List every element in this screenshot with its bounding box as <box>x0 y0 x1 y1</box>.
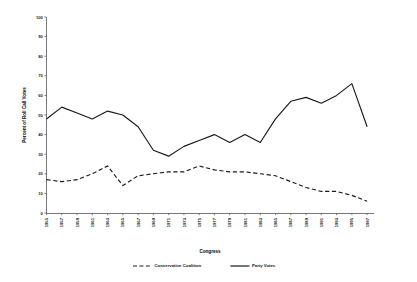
y-tick-label: 80 <box>38 54 43 59</box>
x-axis-title: Congress <box>199 249 221 254</box>
x-tick-label: 1989 <box>304 217 309 227</box>
x-tick-label: 1993 <box>334 217 339 227</box>
y-tick-label: 20 <box>38 171 43 176</box>
y-tick-label: 90 <box>38 34 43 39</box>
x-tick-label: 1957 <box>59 217 64 227</box>
x-tick-label: 1959 <box>75 217 80 227</box>
y-tick-label: 10 <box>38 191 43 196</box>
x-tick-label: 1991 <box>319 217 324 227</box>
y-tick-label: 30 <box>38 152 43 157</box>
x-tick-label: 1973 <box>182 217 187 227</box>
x-tick-label: 1979 <box>227 217 232 227</box>
x-tick-label: 1955 <box>44 217 49 227</box>
line-chart: 0102030405060708090100 Percent of Roll C… <box>0 0 417 282</box>
y-tick-label: 70 <box>38 73 43 78</box>
y-tick-label: 100 <box>36 15 44 20</box>
chart-background <box>0 0 417 282</box>
y-tick-label: 60 <box>38 93 43 98</box>
x-tick-label: 1961 <box>90 217 95 227</box>
x-tick-label: 1997 <box>365 217 370 227</box>
x-tick-label: 1975 <box>197 217 202 227</box>
x-tick-label: 1963 <box>105 217 110 227</box>
x-tick-label: 1967 <box>136 217 141 227</box>
chart-figure: 0102030405060708090100 Percent of Roll C… <box>0 0 417 282</box>
x-tick-label: 1977 <box>212 217 217 227</box>
x-tick-label: 1995 <box>349 217 354 227</box>
y-tick-label: 50 <box>38 113 43 118</box>
y-axis-title: Percent of Roll Call Votes <box>22 87 27 143</box>
legend-label-0: Conservative Coalition <box>155 263 202 268</box>
x-tick-label: 1985 <box>273 217 278 227</box>
y-tick-label: 40 <box>38 132 43 137</box>
x-tick-label: 1983 <box>258 217 263 227</box>
legend-label-1: Party Votes <box>252 263 276 268</box>
x-tick-label: 1981 <box>243 217 248 227</box>
x-tick-label: 1965 <box>120 217 125 227</box>
x-tick-label: 1969 <box>151 217 156 227</box>
x-tick-label: 1971 <box>166 217 171 227</box>
x-tick-label: 1987 <box>288 217 293 227</box>
